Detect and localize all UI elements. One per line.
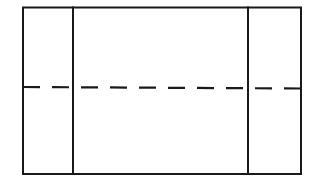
horizontal-dashed-line (23, 87, 301, 89)
fold-diagram (0, 0, 310, 179)
outer-rectangle (23, 8, 301, 175)
